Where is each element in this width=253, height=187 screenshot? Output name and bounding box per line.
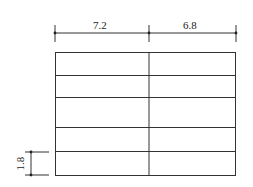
- dimension-label-left: 7.2: [93, 20, 107, 31]
- dim-mark: [235, 32, 238, 35]
- structural-grid-diagram: 7.2 6.8 1.8: [0, 0, 253, 187]
- grid-outline: [56, 53, 236, 176]
- dim-mark: [148, 32, 151, 35]
- dimension-label-row-height: 1.8: [15, 157, 26, 171]
- dim-mark: [54, 32, 57, 35]
- dimension-label-right: 6.8: [183, 20, 197, 31]
- dim-mark: [30, 151, 33, 154]
- grid-drawing: [0, 0, 253, 187]
- dim-mark: [30, 174, 33, 177]
